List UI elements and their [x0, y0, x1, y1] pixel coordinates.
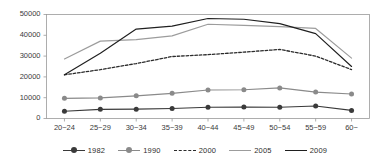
data-point — [134, 93, 139, 98]
series-group — [62, 18, 354, 113]
series-line-2009 — [64, 18, 351, 74]
legend-item-2005[interactable]: 2005 — [229, 146, 272, 156]
legend-label: 2009 — [310, 146, 328, 155]
x-tick-label: 55~59 — [305, 123, 326, 132]
x-tick-label: 40~44 — [197, 123, 218, 132]
data-point — [134, 107, 139, 112]
x-axis-tick-labels: 20~2425~2930~3435~3940~4445~4950~5455~59… — [54, 123, 359, 132]
data-point — [206, 88, 211, 93]
legend-item-1990[interactable]: 1990 — [118, 146, 161, 156]
chart-canvas: 01000020000300004000050000 20~2425~2930~… — [0, 0, 390, 137]
chart-legend: 19821990200020052009 — [0, 136, 390, 165]
line-chart: 01000020000300004000050000 20~2425~2930~… — [0, 0, 390, 165]
series-1982 — [62, 104, 354, 114]
legend-swatch-icon — [118, 146, 140, 156]
legend-swatch-icon — [63, 146, 85, 156]
y-tick-label: 0 — [36, 113, 40, 122]
data-point — [241, 87, 246, 92]
series-2005 — [64, 24, 351, 59]
legend-label: 1982 — [88, 146, 106, 155]
data-point — [170, 91, 175, 96]
y-tick-label: 40000 — [20, 30, 41, 39]
data-point — [277, 105, 282, 110]
series-line-2000 — [64, 49, 351, 74]
series-line-2005 — [64, 24, 351, 59]
legend-label: 1990 — [143, 146, 161, 155]
data-point — [62, 96, 67, 101]
legend-label: 2005 — [254, 146, 272, 155]
legend-label: 2000 — [199, 146, 217, 155]
plot-frame — [47, 15, 370, 119]
x-tick-label: 25~29 — [90, 123, 111, 132]
series-2009 — [64, 18, 351, 74]
legend-swatch-icon — [285, 146, 307, 156]
y-tick-label: 30000 — [20, 51, 41, 60]
legend-swatch-icon — [174, 146, 196, 156]
data-point — [313, 90, 318, 95]
x-tick-label: 45~49 — [233, 123, 254, 132]
data-point — [277, 85, 282, 90]
y-tick-label: 50000 — [20, 9, 41, 18]
x-tick-label: 30~34 — [126, 123, 147, 132]
x-tick-label: 50~54 — [269, 123, 290, 132]
x-axis-tick-marks — [64, 119, 351, 122]
series-2000 — [64, 49, 351, 74]
y-axis-tick-marks — [44, 15, 47, 119]
x-tick-label: 60~ — [345, 123, 358, 132]
y-tick-label: 10000 — [20, 93, 41, 102]
data-point — [206, 105, 211, 110]
legend-item-1982[interactable]: 1982 — [63, 146, 106, 156]
data-point — [349, 91, 354, 96]
data-point — [98, 107, 103, 112]
legend-swatch-icon — [229, 146, 251, 156]
y-tick-label: 20000 — [20, 72, 41, 81]
legend-item-2000[interactable]: 2000 — [174, 146, 217, 156]
x-tick-label: 35~39 — [162, 123, 183, 132]
x-tick-label: 20~24 — [54, 123, 75, 132]
y-axis-tick-labels: 01000020000300004000050000 — [20, 9, 41, 122]
legend-item-2009[interactable]: 2009 — [285, 146, 328, 156]
data-point — [170, 106, 175, 111]
data-point — [98, 95, 103, 100]
data-point — [241, 105, 246, 110]
data-point — [313, 104, 318, 109]
data-point — [349, 108, 354, 113]
data-point — [62, 109, 67, 114]
series-1990 — [62, 85, 354, 100]
plot-area: 01000020000300004000050000 20~2425~2930~… — [0, 0, 390, 137]
